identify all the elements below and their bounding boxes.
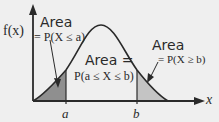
y-axis-label: f(x) [3,24,24,38]
pdf-diagram: f(x) Area = P(X ≤ a) Area = P(a ≤ X ≤ b)… [0,0,219,122]
left-pointer-line [50,40,57,80]
left-area-formula: = P(X ≤ a) [34,31,85,43]
left-area-title: Area [40,15,72,29]
right-pointer-arrowhead-icon [147,73,154,83]
right-area-formula: = P(X ≥ b) [158,54,205,65]
y-axis-arrow-icon [29,4,37,15]
x-axis-label: x [206,93,212,107]
tick-label-b: b [133,107,140,120]
right-pointer-line [151,62,158,76]
x-axis-arrow-icon [194,97,205,105]
middle-area-formula: P(a ≤ X ≤ b) [74,70,134,82]
tick-label-a: a [62,107,69,120]
right-area-title: Area [152,38,184,52]
middle-area-title: Area = [85,53,133,67]
